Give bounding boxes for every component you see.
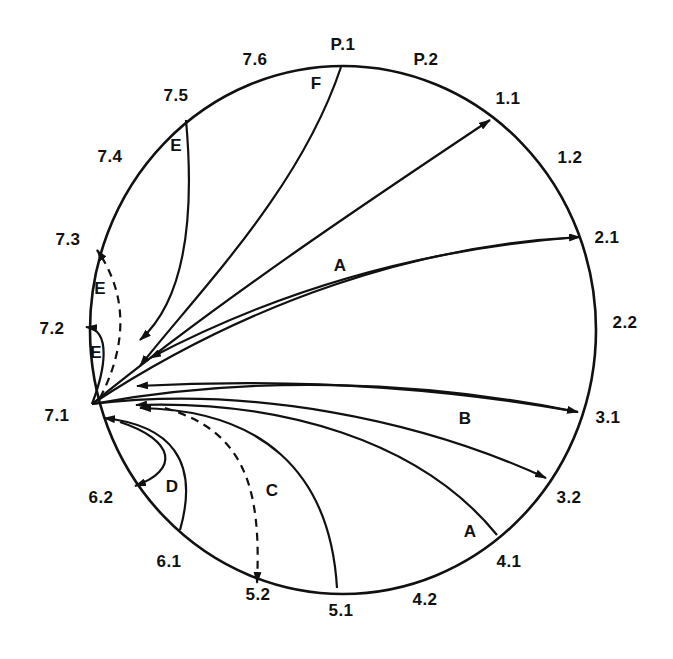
- path-label-D: D: [166, 477, 178, 497]
- edges-group: [86, 67, 580, 588]
- node-label-P-2: P.2: [414, 50, 439, 70]
- node-label-4-1: 4.1: [496, 552, 521, 572]
- outer-circle: [90, 66, 596, 594]
- diagram-canvas: [0, 0, 673, 659]
- path-label-F: F: [311, 74, 321, 94]
- node-label-7-2: 7.2: [39, 319, 64, 339]
- node-label-2-1: 2.1: [594, 228, 619, 248]
- edge-7-1-to-7-2: [86, 327, 104, 404]
- transition-diagram: P.1P.21.11.22.12.23.13.24.14.25.15.26.16…: [0, 0, 673, 659]
- node-label-3-2: 3.2: [556, 488, 581, 508]
- path-label-E-top: E: [170, 136, 181, 156]
- edge-7-1-to-6-2: [120, 422, 165, 486]
- node-label-6-2: 6.2: [88, 488, 113, 508]
- path-label-B: B: [459, 409, 471, 429]
- node-label-7-6: 7.6: [242, 50, 267, 70]
- node-label-3-1: 3.1: [595, 408, 620, 428]
- node-label-5-2: 5.2: [245, 585, 270, 605]
- node-label-1-1: 1.1: [495, 89, 520, 109]
- node-label-5-1: 5.1: [328, 601, 353, 621]
- edge-4-1-to-7-1: [136, 405, 497, 535]
- edge-7-1-to-3-2: [92, 399, 546, 478]
- edge-2-1-to-7-1: [150, 237, 580, 358]
- node-label-2-2: 2.2: [612, 313, 637, 333]
- node-label-7-4: 7.4: [97, 147, 122, 167]
- edge-7-1-to-1-1: [92, 120, 490, 404]
- node-label-P-1: P.1: [331, 35, 356, 55]
- node-label-7-1: 7.1: [44, 406, 69, 426]
- path-label-E-mid: E: [94, 279, 105, 299]
- node-label-1-2: 1.2: [557, 148, 582, 168]
- path-label-C: C: [266, 481, 278, 501]
- node-label-7-5: 7.5: [163, 86, 188, 106]
- path-label-A-upper: A: [334, 256, 346, 276]
- edge-3-1-to-7-1: [137, 383, 578, 412]
- node-label-4-2: 4.2: [412, 590, 437, 610]
- node-label-7-3: 7.3: [55, 230, 80, 250]
- path-label-E-low: E: [90, 343, 101, 363]
- edge-6-1-to-7-1: [104, 418, 186, 530]
- path-label-A-lower: A: [464, 522, 476, 542]
- node-label-6-1: 6.1: [156, 552, 181, 572]
